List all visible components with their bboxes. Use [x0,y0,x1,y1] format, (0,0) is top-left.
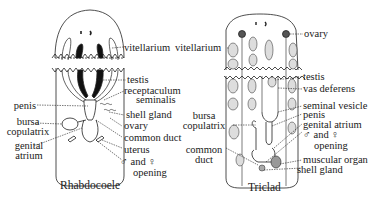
label-opening-1: ♂ and ♀ [120,157,156,167]
label-opening-2: opening [133,168,167,178]
label-bursa-2: copulatrix [178,121,230,131]
label-ovary: ovary [304,29,328,39]
label-receptaculum-2: seminalis [136,95,176,105]
label-genital-2: atrium [6,151,52,161]
label-opening-2: opening [314,141,348,151]
label-vas-deferens: vas deferens [303,84,355,94]
caption-triclad: Triclad [248,181,281,193]
label-testis: testis [127,75,149,85]
label-shell-gland: shell gland [126,110,172,120]
rhabdocoele-body [52,10,124,186]
label-vitellarium: vitellarium [124,43,170,53]
label-bursa-2: copulatrix [0,127,56,137]
label-uterus: uterus [124,145,150,155]
label-ovary: ovary [124,121,148,131]
label-opening-1: ♂ and ♀ [303,130,339,140]
label-testis: testis [303,72,325,82]
label-vitellarium: vitellarium [175,43,221,53]
caption-rhabdocoele: Rhabdocoele [60,179,120,191]
label-common-duct: common duct [124,133,181,143]
label-common-2: duct [184,155,224,165]
label-penis: penis [6,101,36,111]
label-shell-gland: shell gland [297,165,343,175]
